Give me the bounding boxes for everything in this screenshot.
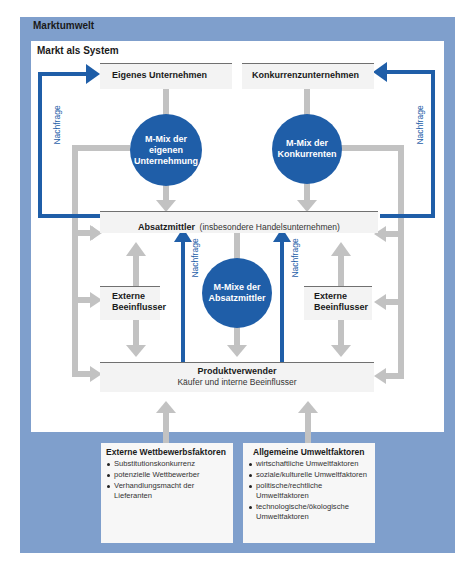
intermediary-mix-line1: M-Mixe der bbox=[208, 282, 265, 293]
product-users-sub: Käufer und interne Beeinflusser bbox=[100, 377, 374, 388]
own-company-label: Eigenes Unternehmen bbox=[112, 70, 207, 80]
comp-mix-line1: M-Mix der bbox=[277, 138, 336, 149]
list-item: Verhandlungsmacht der Lieferanten bbox=[114, 481, 228, 501]
general-environment-factors-box: Allgemeine Umweltfaktoren wirtschaftlich… bbox=[243, 443, 375, 543]
list-item: soziale/kulturelle Umweltfaktoren bbox=[256, 470, 370, 480]
competitor-box: Konkurrenzunternehmen bbox=[242, 63, 374, 89]
list-item: wirtschaftliche Umweltfaktoren bbox=[256, 459, 370, 469]
comp-mix-line2: Konkurrenten bbox=[277, 149, 336, 160]
own-mix-line1: M-Mix der bbox=[134, 134, 198, 145]
list-item: potenzielle Wettbewerber bbox=[114, 470, 228, 480]
competition-factors-title: Externe Wettbewerbsfaktoren bbox=[106, 447, 228, 457]
external-right-line2: Beeinflusser bbox=[314, 302, 368, 313]
intermediaries-box: Absatzmittler (insbesondere Handelsunter… bbox=[100, 211, 378, 233]
external-competition-factors-box: Externe Wettbewerbsfaktoren Substitution… bbox=[101, 443, 233, 543]
demand-label-left: Nachfrage bbox=[52, 100, 62, 150]
intermediaries-label: Absatzmittler bbox=[138, 222, 195, 232]
list-item: Substitutionskonkurrenz bbox=[114, 459, 228, 469]
external-right-line1: Externe bbox=[314, 291, 368, 302]
external-left-line2: Beeinflusser bbox=[112, 302, 166, 313]
demand-label-center-right: Nachfrage bbox=[290, 233, 300, 283]
competition-factors-list: Substitutionskonkurrenz potenzielle Wett… bbox=[106, 459, 228, 501]
demand-label-center-left: Nachfrage bbox=[190, 233, 200, 283]
environment-factors-list: wirtschaftliche Umweltfaktoren soziale/k… bbox=[248, 459, 370, 522]
external-influencer-left-label: Externe Beeinflusser bbox=[112, 291, 166, 313]
intermediary-mix-line2: Absatzmittler bbox=[208, 293, 265, 304]
external-left-line1: Externe bbox=[112, 291, 166, 302]
list-item: politische/rechtliche Umweltfaktoren bbox=[256, 481, 370, 501]
product-users-text: Produktverwender Käufer und interne Beei… bbox=[100, 366, 374, 388]
own-mix-line2: eigenen bbox=[134, 145, 198, 156]
list-item: technologische/ökologische Umweltfaktore… bbox=[256, 502, 370, 522]
competitor-label: Konkurrenzunternehmen bbox=[252, 70, 359, 80]
own-marketing-mix-circle: M-Mix der eigenen Unternehmung bbox=[130, 114, 202, 186]
own-company-box: Eigenes Unternehmen bbox=[100, 63, 232, 89]
product-users-box: Produktverwender Käufer und interne Beei… bbox=[100, 362, 374, 392]
external-influencer-right-box: Externe Beeinflusser bbox=[304, 286, 372, 320]
demand-label-right: Nachfrage bbox=[415, 100, 425, 150]
external-influencer-right-label: Externe Beeinflusser bbox=[314, 291, 368, 313]
product-users-label: Produktverwender bbox=[100, 366, 374, 377]
competitor-marketing-mix-circle: M-Mix der Konkurrenten bbox=[272, 114, 342, 184]
external-influencer-left-box: Externe Beeinflusser bbox=[100, 286, 160, 320]
intermediaries-note: (insbesondere Handelsunternehmen) bbox=[200, 222, 340, 232]
own-mix-line3: Unternehmung bbox=[134, 156, 198, 167]
intermediary-marketing-mix-circle: M-Mixe der Absatzmittler bbox=[202, 258, 272, 328]
environment-factors-title: Allgemeine Umweltfaktoren bbox=[248, 447, 370, 457]
intermediaries-text: Absatzmittler (insbesondere Handelsunter… bbox=[100, 216, 378, 234]
